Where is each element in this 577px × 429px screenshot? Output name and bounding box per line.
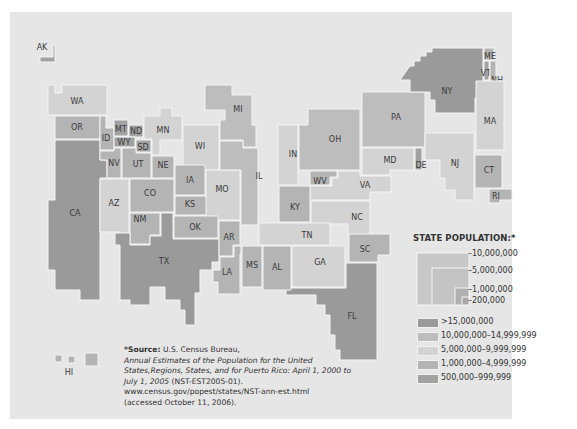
- svg-text:MO: MO: [215, 185, 228, 194]
- state-WY[interactable]: WY: [114, 137, 135, 147]
- legend-label-10to15m: 10,000,000–14,999,999: [441, 331, 537, 340]
- state-PA[interactable]: PA: [362, 92, 425, 147]
- legend-swatch-5to10m: [417, 346, 439, 356]
- state-MS[interactable]: MS: [242, 246, 262, 287]
- source-url: www.census.gov/popest/states/NST-ann-est…: [124, 387, 309, 396]
- svg-text:UT: UT: [133, 160, 144, 169]
- state-WA[interactable]: WA: [48, 85, 107, 115]
- state-OR[interactable]: OR: [55, 116, 100, 139]
- svg-text:NE: NE: [157, 161, 168, 170]
- source-agency: U.S. Census Bureau,: [163, 345, 240, 354]
- svg-text:LA: LA: [222, 268, 233, 277]
- svg-text:MN: MN: [157, 126, 170, 135]
- svg-text:TN: TN: [301, 231, 313, 240]
- source-note: *Source: U.S. Census Bureau, Annual Esti…: [124, 345, 354, 408]
- svg-text:ID: ID: [102, 134, 111, 143]
- legend-label-500kto1m: 500,000–999,999: [441, 373, 511, 382]
- svg-text:NM: NM: [134, 215, 147, 224]
- svg-text:CA: CA: [69, 209, 81, 218]
- legend-swatch-500kto1m: [417, 374, 439, 384]
- state-MO[interactable]: MO: [206, 170, 240, 220]
- svg-text:WY: WY: [118, 138, 131, 147]
- svg-text:SC: SC: [360, 245, 371, 254]
- state-KY[interactable]: KY: [279, 186, 310, 222]
- state-IA[interactable]: IA: [175, 165, 205, 195]
- state-CO[interactable]: CO: [130, 179, 174, 212]
- state-MT[interactable]: MT: [114, 120, 128, 136]
- state-GA[interactable]: GA: [292, 246, 345, 287]
- state-CT[interactable]: CT: [475, 155, 502, 188]
- svg-text:GA: GA: [314, 258, 326, 267]
- source-prefix: *Source:: [124, 345, 161, 354]
- svg-text:KY: KY: [290, 203, 300, 212]
- svg-text:NY: NY: [442, 87, 453, 96]
- svg-text:OR: OR: [71, 123, 83, 132]
- svg-text:RI: RI: [492, 192, 500, 201]
- svg-text:OH: OH: [329, 135, 341, 144]
- state-SD[interactable]: SD: [136, 140, 151, 152]
- state-HI[interactable]: HI: [55, 353, 98, 377]
- state-IN[interactable]: IN: [278, 125, 298, 185]
- svg-text:OK: OK: [189, 223, 201, 232]
- state-CA[interactable]: CA: [48, 140, 107, 300]
- svg-text:ND: ND: [130, 127, 142, 136]
- state-KS[interactable]: KS: [175, 196, 210, 215]
- svg-text:AK: AK: [37, 43, 48, 52]
- source-accessed: (accessed October 11, 2006).: [124, 398, 236, 407]
- svg-text:AR: AR: [223, 233, 234, 242]
- legend-tick-1m: –1,000,000: [468, 285, 513, 294]
- svg-text:HI: HI: [65, 368, 73, 377]
- svg-text:MA: MA: [484, 117, 497, 126]
- legend-title: STATE POPULATION:*: [413, 233, 516, 243]
- state-ND[interactable]: ND: [129, 125, 143, 137]
- svg-text:MI: MI: [233, 105, 242, 114]
- svg-text:IA: IA: [186, 176, 194, 185]
- legend-tick-10m: –10,000,000: [468, 249, 518, 258]
- svg-text:VA: VA: [360, 181, 371, 190]
- state-SC[interactable]: SC: [349, 234, 390, 262]
- state-TN[interactable]: TN: [259, 223, 330, 245]
- legend-swatch-gt15m: [417, 318, 439, 328]
- svg-text:DE: DE: [415, 161, 426, 170]
- svg-text:MS: MS: [246, 261, 258, 270]
- state-NJ[interactable]: NJ: [425, 133, 474, 200]
- svg-text:TX: TX: [158, 257, 170, 266]
- state-OH[interactable]: OH: [299, 109, 360, 170]
- legend-tick-200k: –200,000: [468, 296, 505, 305]
- svg-text:WA: WA: [71, 97, 84, 106]
- state-WI[interactable]: WI: [183, 125, 219, 170]
- state-MD[interactable]: MD: [362, 148, 414, 175]
- svg-text:MT: MT: [115, 125, 127, 134]
- state-RI[interactable]: RI: [489, 189, 512, 203]
- svg-text:KS: KS: [185, 200, 195, 209]
- state-OK[interactable]: OK: [174, 216, 218, 238]
- svg-text:CO: CO: [144, 189, 156, 198]
- legend-label-gt15m: >15,000,000: [441, 317, 494, 326]
- svg-text:WV: WV: [313, 177, 327, 186]
- svg-text:SD: SD: [137, 143, 148, 152]
- state-NE[interactable]: NE: [152, 156, 174, 178]
- svg-text:NV: NV: [108, 159, 120, 168]
- svg-text:IL: IL: [256, 172, 263, 181]
- svg-text:FL: FL: [347, 312, 357, 321]
- svg-text:NJ: NJ: [451, 159, 459, 168]
- svg-text:WI: WI: [195, 142, 205, 151]
- state-ME[interactable]: ME: [484, 48, 496, 61]
- svg-text:AZ: AZ: [109, 199, 120, 208]
- state-AL[interactable]: AL: [263, 246, 291, 290]
- legend-size-squares: [417, 253, 469, 305]
- state-ID[interactable]: ID: [100, 116, 114, 150]
- svg-text:CT: CT: [484, 166, 495, 175]
- state-AK[interactable]: AK: [37, 43, 55, 63]
- svg-text:NC: NC: [351, 213, 363, 222]
- svg-text:MD: MD: [383, 156, 396, 165]
- state-MA[interactable]: MA: [476, 81, 504, 150]
- legend-tick-5m: –5,000,000: [468, 266, 513, 275]
- legend-swatch-1to5m: [417, 360, 439, 370]
- legend-label-5to10m: 5,000,000–9,999,999: [441, 345, 526, 354]
- legend-swatch-10to15m: [417, 332, 439, 342]
- state-AZ[interactable]: AZ: [100, 179, 129, 237]
- svg-text:IN: IN: [289, 150, 297, 159]
- state-UT[interactable]: UT: [122, 148, 151, 178]
- legend-label-1to5m: 1,000,000–4,999,999: [441, 359, 526, 368]
